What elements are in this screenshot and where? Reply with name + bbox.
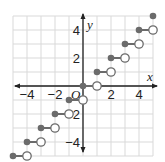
open-point-icon xyxy=(107,68,115,76)
closed-point-icon xyxy=(10,153,17,160)
closed-point-icon xyxy=(80,83,87,90)
closed-point-icon xyxy=(24,139,31,146)
step-segment xyxy=(94,68,116,76)
closed-point-icon xyxy=(66,97,73,104)
closed-point-icon xyxy=(150,13,157,20)
open-point-icon xyxy=(65,110,73,118)
y-tick-label: 2 xyxy=(73,51,80,66)
step-segment xyxy=(80,82,102,90)
step-segment xyxy=(10,152,32,160)
step-segment xyxy=(24,138,45,146)
closed-point-icon xyxy=(108,55,115,62)
y-tick-label: −4 xyxy=(65,135,80,150)
step-function-graph: −4−22442−2−4xyO xyxy=(0,0,165,162)
axes xyxy=(14,13,158,153)
closed-point-icon xyxy=(136,27,143,34)
open-point-icon xyxy=(93,82,101,90)
open-point-icon xyxy=(135,40,143,48)
step-segment xyxy=(122,40,144,48)
open-point-icon xyxy=(37,138,45,146)
open-point-icon xyxy=(51,124,59,132)
closed-point-icon xyxy=(122,41,129,48)
open-point-icon xyxy=(23,152,31,160)
step-segment xyxy=(136,26,158,34)
closed-point-icon xyxy=(38,125,45,132)
step-segment xyxy=(38,124,59,132)
y-axis-label: y xyxy=(85,17,93,32)
open-point-icon xyxy=(79,96,87,104)
x-tick-label: −4 xyxy=(20,87,35,102)
x-tick-label: 2 xyxy=(107,87,114,102)
closed-point-icon xyxy=(52,111,59,118)
step-segment xyxy=(108,54,130,62)
x-axis-arrow-right-icon xyxy=(152,84,158,89)
x-tick-label: 4 xyxy=(135,87,142,102)
x-tick-label: −2 xyxy=(48,87,63,102)
open-point-icon xyxy=(149,26,157,34)
step-segment xyxy=(52,110,74,118)
y-axis-arrow-down-icon xyxy=(81,147,86,153)
closed-point-icon xyxy=(94,69,101,76)
x-axis-label: x xyxy=(146,69,153,84)
open-point-icon xyxy=(121,54,129,62)
y-tick-label: 4 xyxy=(73,23,80,38)
